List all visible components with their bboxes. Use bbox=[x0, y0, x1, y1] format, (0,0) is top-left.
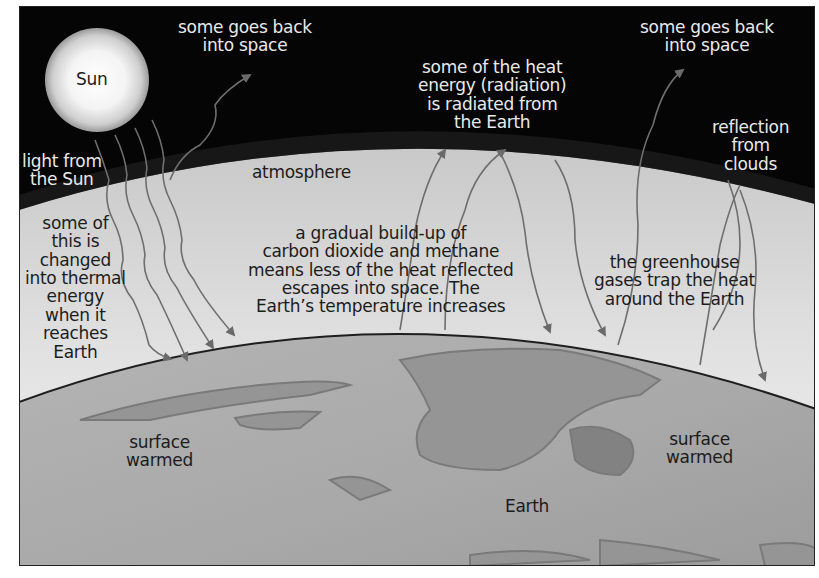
earth-label: Earth bbox=[505, 497, 549, 515]
light-from-sun-label: light from the Sun bbox=[22, 152, 102, 189]
surface-warmed-right-label: surface warmed bbox=[666, 430, 733, 467]
buildup-label: a gradual build-up of carbon dioxide and… bbox=[248, 224, 514, 316]
heat-radiated-label: some of the heat energy (radiation) is r… bbox=[418, 58, 566, 131]
greenhouse-label: the greenhouse gases trap the heat aroun… bbox=[594, 253, 755, 308]
reflection-label: reflection from clouds bbox=[712, 118, 789, 173]
space-left-label: some goes back into space bbox=[178, 18, 312, 55]
atmosphere-label: atmosphere bbox=[252, 163, 351, 181]
surface-warmed-left-label: surface warmed bbox=[126, 433, 193, 470]
sun-label: Sun bbox=[76, 70, 107, 88]
space-right-label: some goes back into space bbox=[640, 18, 774, 55]
greenhouse-effect-diagram: Sun some goes back into space some goes … bbox=[0, 0, 819, 578]
thermal-energy-label: some of this is changed into thermal ene… bbox=[25, 214, 126, 361]
